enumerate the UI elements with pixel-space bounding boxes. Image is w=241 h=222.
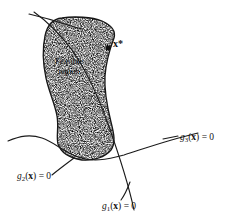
feasible-region-label-line1: Feasible <box>42 57 96 67</box>
leader-line-g2 <box>52 158 74 175</box>
constraint-label-g3: g3(x) = 0 <box>180 133 214 144</box>
figure-container: Feasible region x* g3(x) = 0 g2(x) = 0 g… <box>0 0 241 222</box>
feasible-region-shape <box>0 0 241 222</box>
feasible-region-label-line2: region <box>42 67 96 77</box>
constraint-label-g2: g2(x) = 0 <box>17 172 51 183</box>
feasible-region-label: Feasible region <box>42 57 96 77</box>
optimal-point-label: x* <box>113 39 123 49</box>
leader-line-g1 <box>121 182 130 200</box>
optimal-point-dot <box>106 46 111 51</box>
constraint-label-g1: g1(x) = 0 <box>102 202 136 213</box>
diagram-canvas <box>0 0 241 222</box>
